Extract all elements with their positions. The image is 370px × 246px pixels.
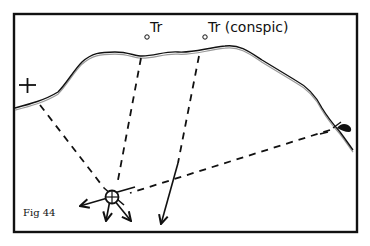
tr-right-label: Tr (conspic) [207, 19, 289, 35]
tr-right-marker: Tr (conspic) [203, 19, 289, 39]
figure-caption: Fig 44 [23, 207, 55, 218]
bearing-line-beacon [130, 130, 330, 193]
position-fix-circle-icon [106, 191, 119, 204]
bearing-line-cross [40, 105, 104, 188]
tr-left-label: Tr [149, 19, 162, 35]
bearing-line-tr-right [178, 56, 199, 163]
tr-right-solid-arrow [161, 163, 178, 224]
figure-44-diagram: Tr Tr (conspic) Fig 44 [0, 0, 370, 246]
direction-arrows [80, 163, 178, 224]
bearing-line-tr-left [118, 58, 141, 180]
tr-left-marker: Tr [145, 19, 163, 39]
church-cross-icon [19, 78, 36, 93]
